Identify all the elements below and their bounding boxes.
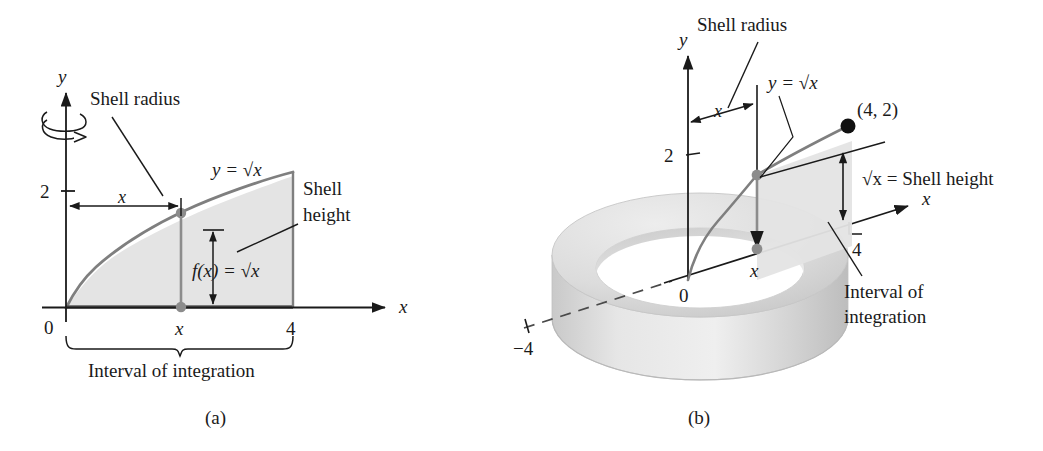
- caption-a: (a): [205, 407, 226, 429]
- origin-label-b: 0: [679, 285, 689, 306]
- curve-label-b: y = √x: [766, 72, 818, 93]
- curve-label-a: y = √x: [210, 159, 262, 180]
- interval-label-line2-b: integration: [844, 306, 927, 327]
- radius-dimension-label-b: x: [713, 101, 722, 121]
- point-4-2-label-b: (4, 2): [857, 99, 898, 121]
- tick-label-y-2-a: 2: [40, 181, 50, 202]
- point-4-2-marker-b: [841, 119, 856, 134]
- shell-radius-label-b: Shell radius: [697, 14, 787, 35]
- shell-height-label-b: √x = Shell height: [862, 168, 994, 189]
- origin-label-a: 0: [44, 317, 54, 338]
- x-axis-label-a: x: [398, 296, 408, 317]
- tick-label-x-4-b: 4: [852, 239, 862, 260]
- y-axis-label-b: y: [677, 29, 688, 50]
- radius-dimension-label-a: x: [117, 187, 126, 207]
- shell-height-label-line2-a: height: [303, 204, 351, 225]
- interval-label-line1-b: Interval of: [844, 281, 924, 302]
- shell-base-point-a: [176, 302, 186, 312]
- shell-radius-label-a: Shell radius: [90, 88, 180, 109]
- tick-label-x-neg4-b: −4: [513, 338, 534, 359]
- tick-label-x-var-b: x: [749, 260, 759, 281]
- tick-label-x-var-a: x: [174, 318, 184, 339]
- shell-height-label-line1-a: Shell: [303, 178, 342, 199]
- tick-label-y-2-b: 2: [664, 145, 674, 166]
- interval-label-a: Interval of integration: [88, 360, 255, 381]
- shell-top-point-b: [752, 170, 763, 181]
- figure-shell-method: x y 2 0 x 4 x Shell radius f: [0, 0, 1043, 451]
- x-axis-label-b: x: [921, 188, 931, 209]
- height-label-a: f(x) = √x: [192, 260, 260, 282]
- tick-label-x-4-a: 4: [286, 318, 296, 339]
- y-axis-label-a: y: [56, 66, 67, 87]
- caption-b: (b): [688, 407, 710, 429]
- shell-base-point-b: [752, 244, 763, 255]
